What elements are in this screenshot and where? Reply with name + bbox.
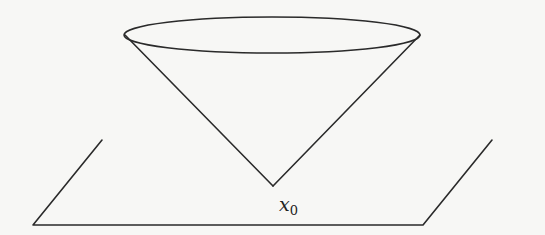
cone-top-ellipse: [124, 17, 420, 53]
apex-label-subscript: 0: [290, 203, 298, 218]
cone-left-edge: [125, 35, 273, 186]
plane: [33, 140, 492, 225]
cone-right-edge: [273, 35, 420, 186]
apex-label-base: x: [279, 193, 290, 215]
light-cone-diagram: [0, 0, 545, 235]
apex-label: x0: [279, 195, 298, 217]
plane-outline: [33, 140, 492, 225]
cone: [124, 17, 420, 186]
